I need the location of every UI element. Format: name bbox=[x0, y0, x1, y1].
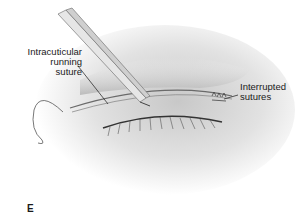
eyelid-suture-drawing bbox=[0, 0, 302, 224]
surgical-illustration: Intracuticular running suture Interrupte… bbox=[0, 0, 302, 224]
panel-letter: E bbox=[27, 203, 34, 214]
intracuticular-label: Intracuticular running suture bbox=[24, 47, 82, 77]
interrupted-label: Interrupted sutures bbox=[240, 82, 286, 102]
interrupted-label-line2: sutures bbox=[240, 92, 286, 102]
intracuticular-label-line2: running suture bbox=[24, 57, 82, 77]
